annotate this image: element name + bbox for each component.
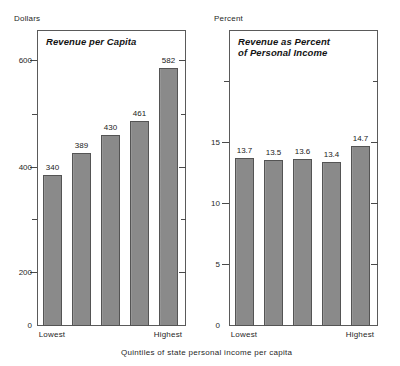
right-tick-20 [224,81,229,82]
panel-revenue-per-capita: Dollars Revenue per Capita 600 400 200 0… [0,0,200,366]
right-tick-20-mirror [373,81,378,82]
left-tick-600-mirror [179,60,186,61]
figure-caption: Quintiles of state personal income per c… [121,348,292,357]
bar-right-3 [293,159,312,326]
right-tick-label-10: 10 [204,199,220,208]
right-category-highest: Highest [346,330,375,339]
bar-right-4 [322,162,341,326]
bar-right-1 [235,158,254,326]
right-tick-5 [222,264,229,265]
bar-right-1-value: 13.7 [237,146,253,155]
bar-left-3-value: 430 [104,123,117,132]
right-tick-10-mirror [371,203,378,204]
bar-right-2 [264,160,283,326]
bar-right-4-value: 13.4 [324,150,340,159]
bar-right-2-value: 13.5 [266,148,282,157]
bar-right-3-value: 13.6 [295,147,311,156]
panel-revenue-as-percent: Percent Revenue as Percent of Personal I… [200,0,400,366]
left-tick-500-mirror [181,114,186,115]
bar-left-5-value: 582 [162,56,175,65]
bar-left-4-value: 461 [133,109,146,118]
right-tick-label-0: 0 [204,321,220,330]
right-tick-label-15: 15 [204,138,220,147]
figure-root: Dollars Revenue per Capita 600 400 200 0… [0,0,400,366]
left-category-lowest: Lowest [39,330,66,339]
bar-left-4 [130,121,149,326]
bar-left-2-value: 389 [75,141,88,150]
bar-left-3 [101,135,120,326]
left-tick-label-400: 400 [12,163,32,172]
right-tick-label-5: 5 [204,260,220,269]
left-tick-label-200: 200 [12,268,32,277]
left-tick-300 [32,219,37,220]
left-tick-label-0: 0 [12,321,32,330]
left-category-highest: Highest [154,330,183,339]
left-tick-500 [32,114,37,115]
bar-left-1 [43,175,62,326]
right-tick-15-mirror [371,142,378,143]
left-tick-200-mirror [179,272,186,273]
left-tick-300-mirror [181,219,186,220]
right-tick-10 [222,203,229,204]
left-tick-label-600: 600 [12,56,32,65]
left-axis-unit-label: Dollars [14,14,40,23]
left-panel-title: Revenue per Capita [46,36,137,47]
right-tick-5-mirror [371,264,378,265]
right-panel-title: Revenue as Percent of Personal Income [238,36,330,58]
right-tick-15 [222,142,229,143]
bar-right-5-value: 14.7 [353,134,369,143]
right-axis-unit-label: Percent [214,14,243,23]
bar-left-2 [72,153,91,326]
bar-left-5 [159,68,178,326]
bar-left-1-value: 340 [46,163,59,172]
right-category-lowest: Lowest [231,330,258,339]
bar-right-5 [351,146,370,326]
left-tick-400-mirror [179,167,186,168]
